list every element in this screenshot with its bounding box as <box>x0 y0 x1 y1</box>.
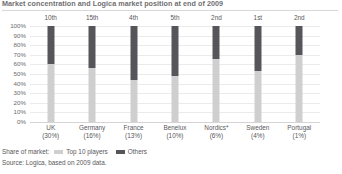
title-divider <box>2 10 338 11</box>
bar-column[interactable] <box>279 26 320 122</box>
rank-label: 2nd <box>279 14 320 22</box>
page-title: Market concentration and Logica market p… <box>2 0 340 8</box>
gridline <box>30 122 320 123</box>
bar-segment-others[interactable] <box>47 26 54 64</box>
legend-label-others: Others <box>128 148 147 156</box>
rank-label: 15th <box>71 14 112 22</box>
x-axis-tick-label: France(13%) <box>113 124 154 141</box>
x-axis-country-share: (1%) <box>279 132 320 140</box>
stacked-bar[interactable] <box>171 26 178 122</box>
x-axis-tick-label: Benelux(10%) <box>154 124 195 141</box>
x-axis-tick-label: UK(30%) <box>30 124 71 141</box>
bar-segment-top10[interactable] <box>89 68 96 122</box>
y-axis-tick-label: 30% <box>14 90 26 96</box>
y-axis-tick-label: 60% <box>14 61 26 67</box>
x-axis-country-share: (16%) <box>71 132 112 140</box>
x-axis-country-share: (30%) <box>30 132 71 140</box>
x-axis-labels: UK(30%)Germany(16%)France(13%)Benelux(10… <box>30 124 320 146</box>
x-axis-country-name: UK <box>46 124 55 131</box>
x-axis-country-name: Nordics* <box>204 124 228 131</box>
y-axis-labels: 100%90%80%70%60%50%40%30%20%10%0% <box>0 26 28 122</box>
stacked-bar[interactable] <box>89 26 96 122</box>
bar-column[interactable] <box>30 26 71 122</box>
y-axis-tick-label: 10% <box>14 109 26 115</box>
bar-segment-others[interactable] <box>296 26 303 55</box>
legend: Share of market: Top 10 players Others <box>2 148 340 156</box>
x-axis-country-share: (4%) <box>237 132 278 140</box>
legend-swatch-others-icon <box>116 150 125 154</box>
stacked-bar[interactable] <box>254 26 261 122</box>
stacked-bar[interactable] <box>296 26 303 122</box>
bar-series-group <box>30 26 320 122</box>
stacked-bar[interactable] <box>130 26 137 122</box>
bar-column[interactable] <box>154 26 195 122</box>
x-axis-country-share: (13%) <box>113 132 154 140</box>
rank-label: 10th <box>30 14 71 22</box>
legend-item-top10: Top 10 players <box>54 148 108 156</box>
x-axis-tick-label: Sweden(4%) <box>237 124 278 141</box>
bar-column[interactable] <box>113 26 154 122</box>
legend-title: Share of market: <box>2 148 49 156</box>
legend-label-top10: Top 10 players <box>66 148 108 156</box>
bar-segment-top10[interactable] <box>130 80 137 122</box>
stacked-bar[interactable] <box>47 26 54 122</box>
chart-footer: Share of market: Top 10 players Others S… <box>2 148 340 167</box>
bar-column[interactable] <box>237 26 278 122</box>
legend-swatch-top10-icon <box>54 150 63 154</box>
x-axis-country-name: Sweden <box>246 124 269 131</box>
legend-item-others: Others <box>116 148 147 156</box>
rank-label: 4th <box>113 14 154 22</box>
x-axis-country-share: (6%) <box>196 132 237 140</box>
bar-segment-others[interactable] <box>254 26 261 71</box>
x-axis-country-share: (10%) <box>154 132 195 140</box>
bar-segment-top10[interactable] <box>213 59 220 122</box>
bar-segment-top10[interactable] <box>47 64 54 122</box>
bar-segment-others[interactable] <box>89 26 96 68</box>
bar-segment-others[interactable] <box>213 26 220 59</box>
bar-segment-top10[interactable] <box>254 71 261 122</box>
x-axis-tick-label: Portugal(1%) <box>279 124 320 141</box>
y-axis-tick-label: 70% <box>14 52 26 58</box>
bar-column[interactable] <box>71 26 112 122</box>
bar-segment-others[interactable] <box>130 26 137 80</box>
source-note: Source: Logica, based on 2009 data. <box>2 159 340 167</box>
bar-segment-top10[interactable] <box>296 55 303 122</box>
x-axis-country-name: Portugal <box>287 124 311 131</box>
x-axis-tick-label: Nordics*(6%) <box>196 124 237 141</box>
rank-label: 2nd <box>196 14 237 22</box>
x-axis-country-name: Benelux <box>163 124 186 131</box>
y-axis-tick-label: 90% <box>14 33 26 39</box>
y-axis-tick-label: 100% <box>10 23 26 29</box>
bar-segment-top10[interactable] <box>171 76 178 122</box>
y-axis-tick-label: 20% <box>14 100 26 106</box>
bar-segment-others[interactable] <box>171 26 178 76</box>
y-axis-tick-label: 0% <box>17 119 26 125</box>
bar-column[interactable] <box>196 26 237 122</box>
x-axis-tick-label: Germany(16%) <box>71 124 112 141</box>
rank-label: 1st <box>237 14 278 22</box>
chart-page: Market concentration and Logica market p… <box>0 0 342 174</box>
stacked-bar[interactable] <box>213 26 220 122</box>
rank-label: 5th <box>154 14 195 22</box>
x-axis-country-name: Germany <box>79 124 105 131</box>
y-axis-tick-label: 40% <box>14 81 26 87</box>
y-axis-tick-label: 50% <box>14 71 26 77</box>
y-axis-tick-label: 80% <box>14 42 26 48</box>
x-axis-country-name: France <box>124 124 144 131</box>
